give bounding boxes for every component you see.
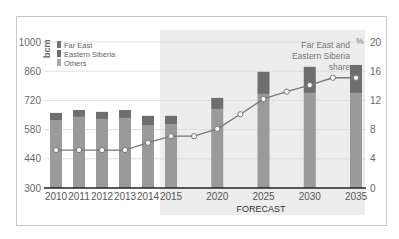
share-point [330,75,335,80]
right-axis-tick: 12 [370,95,382,106]
right-axis-tick: 0 [370,183,376,194]
x-axis-tick: 2015 [160,191,183,202]
left-axis-tick: 440 [24,153,41,164]
left-axis-tick: 860 [24,66,41,77]
forecast-label: FORECAST [236,204,286,214]
bar-eastern-siberia-2014 [142,116,154,125]
share-point [145,140,150,145]
share-point [99,147,104,152]
x-axis-tick: 2020 [206,191,229,202]
bar-eastern-siberia-2030 [304,67,316,93]
x-axis-tick: 2013 [114,191,137,202]
bar-others-2010 [50,120,62,188]
legend-swatch [57,41,61,48]
share-point [215,126,220,131]
legend-swatch [57,50,61,57]
share-annotation: share [329,62,351,72]
bar-others-2012 [96,119,108,188]
left-axis-tick: 580 [24,124,41,135]
left-axis-tick: 720 [24,95,41,106]
right-axis-tick: 4 [370,153,376,164]
legend-label: Others [64,59,87,68]
share-point [353,75,358,80]
left-axis-tick: 300 [24,183,41,194]
share-point [284,89,289,94]
share-annotation: Far East and [301,40,350,50]
x-axis-tick: 2025 [252,191,275,202]
right-axis-tick: 16 [370,66,382,77]
bar-eastern-siberia-2011 [73,110,85,117]
share-point [192,134,197,139]
share-point [53,147,58,152]
bar-eastern-siberia-2010 [50,113,62,120]
left-axis-unit: bcm [42,39,52,58]
bar-eastern-siberia-2020 [211,98,223,109]
bar-eastern-siberia-2025 [258,72,270,94]
bar-eastern-siberia-2012 [96,112,108,119]
x-axis-tick: 2011 [68,191,90,202]
share-point [122,147,127,152]
right-axis-tick: 20 [370,37,382,48]
legend-label: Far East [64,41,93,50]
right-axis-tick: 8 [370,124,376,135]
share-point [238,112,243,117]
share-point [168,134,173,139]
bar-eastern-siberia-2015 [165,116,177,124]
share-point [307,82,312,87]
right-axis-unit: % [356,36,364,46]
bar-others-2025 [258,94,270,188]
stacked-bar-line-chart: 3004405807208601000048121620201020112012… [0,0,399,239]
share-annotation: Eastern Siberia [292,51,350,61]
legend-label: Eastern Siberia [64,50,116,59]
bar-others-2035 [350,93,362,188]
left-axis-tick: 1000 [19,37,42,48]
x-axis-tick: 2035 [345,191,368,202]
bar-others-2030 [304,93,316,188]
bar-others-2014 [142,125,154,188]
x-axis-tick: 2030 [299,191,322,202]
share-point [261,96,266,101]
x-axis-tick: 2010 [45,191,68,202]
bar-others-2020 [211,109,223,188]
bar-eastern-siberia-2013 [119,110,131,118]
x-axis-tick: 2014 [137,191,160,202]
legend-swatch [57,59,61,66]
share-point [76,147,81,152]
x-axis-tick: 2012 [91,191,114,202]
